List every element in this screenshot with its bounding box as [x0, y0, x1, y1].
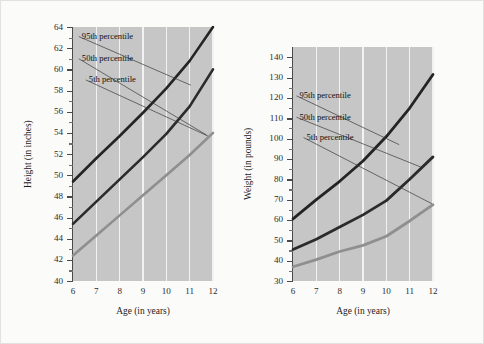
annotation-leader-line — [297, 117, 421, 167]
annotation-label: 5th percentile — [89, 75, 136, 84]
series-line — [73, 133, 213, 256]
annotation-label: 95th percentile — [82, 32, 133, 41]
annotation-label: 95th percentile — [300, 91, 351, 100]
figure-container: 404244464850525456586062646789101112Age … — [0, 0, 484, 344]
series-line — [73, 69, 213, 224]
annotation-leader-line — [79, 59, 207, 135]
chart-height: 404244464850525456586062646789101112Age … — [1, 1, 243, 344]
annotation-label: 5th percentile — [307, 133, 354, 142]
annotation-label: 50th percentile — [300, 113, 351, 122]
chart-weight: 304050607080901001101201301406789101112A… — [243, 1, 484, 344]
series-layer — [243, 1, 484, 344]
annotation-label: 50th percentile — [82, 54, 133, 63]
